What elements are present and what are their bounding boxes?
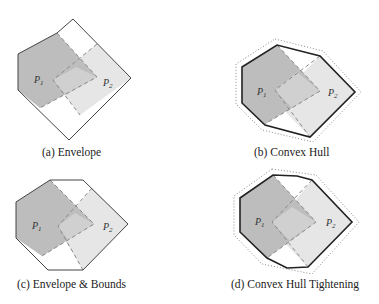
panel-b: P1 P2 bbox=[236, 39, 361, 142]
panel-d: P1 P2 bbox=[234, 169, 359, 274]
panel-c: P1 P2 bbox=[16, 180, 128, 270]
caption-d: (d) Convex Hull Tightening bbox=[231, 278, 359, 290]
panel-a: P1 P2 bbox=[18, 19, 131, 140]
caption-a: (a) Envelope bbox=[42, 146, 101, 158]
caption-b: (b) Convex Hull bbox=[254, 146, 329, 158]
caption-c: (c) Envelope & Bounds bbox=[17, 278, 126, 290]
